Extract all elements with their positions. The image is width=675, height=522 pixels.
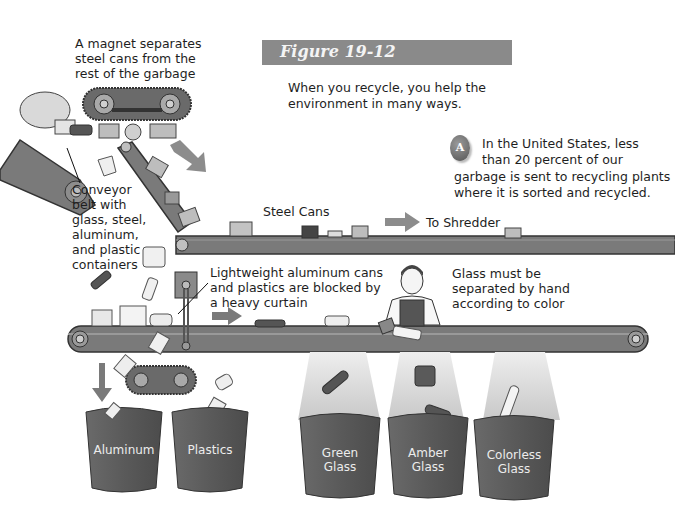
bin-label-line: Amber xyxy=(388,446,468,460)
label-line: steel cans from the xyxy=(75,51,201,66)
label-line: A magnet separates xyxy=(75,36,201,51)
steel-cans-label: Steel Cans xyxy=(263,204,330,219)
label-line: and plastic xyxy=(72,242,146,257)
label-line: separated by hand xyxy=(452,281,570,296)
bin-label-line: Aluminum xyxy=(86,443,162,457)
caption-line: environment in many ways. xyxy=(288,96,486,112)
to-shredder-label: To Shredder xyxy=(426,215,500,230)
glass-hand-label: Glass must be separated by hand accordin… xyxy=(452,266,570,311)
bin-plastics-label: Plastics xyxy=(172,443,248,457)
bin-label-line: Glass xyxy=(474,462,554,476)
label-line: rest of the garbage xyxy=(75,66,201,81)
bin-label-line: Green xyxy=(300,446,380,460)
bin-label-line: Colorless xyxy=(474,448,554,462)
label-line: according to color xyxy=(452,296,570,311)
chute-green xyxy=(298,352,380,420)
callout-a-line: where it is sorted and recycled. xyxy=(454,185,651,201)
arrow-down-icon xyxy=(170,140,206,172)
label-line: aluminum, xyxy=(72,227,146,242)
label-line: and plastics are blocked by xyxy=(210,280,383,295)
callout-a-line: In the United States, less xyxy=(482,136,639,152)
caption-line: When you recycle, you help the xyxy=(288,80,486,96)
label-line: Lightweight aluminum cans xyxy=(210,265,383,280)
bin-colorless-glass-label: Colorless Glass xyxy=(474,448,554,476)
sorting-belt xyxy=(68,306,648,354)
arrow-down-aluminum-icon xyxy=(92,363,112,402)
chute-colorless xyxy=(483,352,560,420)
magnet-belt xyxy=(83,88,191,140)
conveyor-label: Conveyor belt with glass, steel, aluminu… xyxy=(72,182,146,272)
callout-a-line: than 20 percent of our xyxy=(482,152,623,168)
callout-badge-a: A xyxy=(450,135,470,161)
bin-green-glass-label: Green Glass xyxy=(300,446,380,474)
figure-title: Figure 19-12 xyxy=(280,42,396,61)
bin-label-line: Glass xyxy=(300,460,380,474)
bin-label-line: Plastics xyxy=(172,443,248,457)
bin-amber-glass-label: Amber Glass xyxy=(388,446,468,474)
callout-a-line: garbage is sent to recycling plants xyxy=(454,169,670,185)
curtain-label: Lightweight aluminum cans and plastics a… xyxy=(210,265,383,310)
label-line: containers xyxy=(72,257,146,272)
label-line: glass, steel, xyxy=(72,212,146,227)
magnet-label: A magnet separates steel cans from the r… xyxy=(75,36,201,81)
arrow-right-icon xyxy=(385,212,420,232)
label-line: Glass must be xyxy=(452,266,570,281)
bin-aluminum-label: Aluminum xyxy=(86,443,162,457)
label-line: Conveyor xyxy=(72,182,146,197)
label-line: a heavy curtain xyxy=(210,295,383,310)
figure-caption: When you recycle, you help the environme… xyxy=(288,80,486,112)
label-line: belt with xyxy=(72,197,146,212)
plastics-belt xyxy=(114,355,234,415)
bin-label-line: Glass xyxy=(388,460,468,474)
